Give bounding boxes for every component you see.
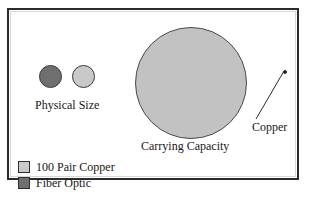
carrying-capacity-label: Carrying Capacity <box>141 140 229 153</box>
legend-label-fiber-optic: Fiber Optic <box>36 177 91 190</box>
copper-callout-label: Copper <box>252 121 287 134</box>
comparison-diagram: Physical Size Carrying Capacity Copper 1… <box>0 0 313 197</box>
legend-item-fiber-optic: Fiber Optic <box>18 175 115 191</box>
legend-label-100-pair-copper: 100 Pair Copper <box>36 161 115 174</box>
physical-size-copper-circle <box>72 65 95 88</box>
diagram-frame: Physical Size Carrying Capacity Copper 1… <box>7 8 299 180</box>
physical-size-fiber-optic-circle <box>39 65 62 88</box>
legend-swatch-fiber-optic <box>18 177 30 189</box>
physical-size-label: Physical Size <box>35 99 99 112</box>
legend-item-100-pair-copper: 100 Pair Copper <box>18 159 115 175</box>
copper-callout-leader-line <box>247 66 295 124</box>
legend: 100 Pair Copper Fiber Optic <box>18 159 115 191</box>
legend-swatch-100-pair-copper <box>18 161 30 173</box>
carrying-capacity-fiber-optic-circle <box>135 27 247 139</box>
